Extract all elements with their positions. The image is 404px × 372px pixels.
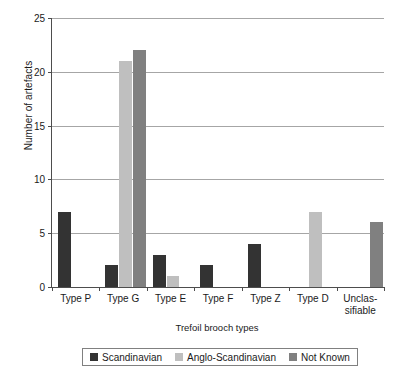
bar-group <box>337 18 384 287</box>
x-tick-mark-end <box>384 287 385 291</box>
category-group: Type F <box>194 18 241 287</box>
chart-legend: ScandinavianAnglo-ScandinavianNot Known <box>82 348 358 366</box>
legend-item[interactable]: Not Known <box>289 352 350 363</box>
x-category-label: Type D <box>289 293 336 305</box>
bar-group <box>289 18 336 287</box>
x-category-label: Type Z <box>242 293 289 305</box>
bar <box>167 276 180 287</box>
category-group: Unclas-sifiable <box>337 18 384 287</box>
legend-item[interactable]: Anglo-Scandinavian <box>175 352 276 363</box>
legend-label: Anglo-Scandinavian <box>187 352 276 363</box>
y-axis-title: Number of artefacts <box>23 26 34 186</box>
bar <box>153 255 166 287</box>
x-category-label: Type F <box>194 293 241 305</box>
x-category-label: Type P <box>52 293 99 305</box>
plot-area: 0510152025Type PType GType EType FType Z… <box>51 18 384 288</box>
legend-swatch-icon <box>90 353 98 361</box>
x-category-label: Type E <box>147 293 194 305</box>
x-tick-mark <box>99 287 100 291</box>
category-group: Type D <box>289 18 336 287</box>
bar <box>58 212 71 287</box>
x-tick-mark <box>147 287 148 291</box>
x-category-label: Type G <box>99 293 146 305</box>
bar-group <box>52 18 99 287</box>
legend-label: Scandinavian <box>102 352 162 363</box>
y-tick-label: 10 <box>34 174 45 185</box>
bar <box>370 222 383 287</box>
category-group: Type G <box>99 18 146 287</box>
legend-swatch-icon <box>289 353 297 361</box>
y-tick-label: 5 <box>39 228 45 239</box>
legend-label: Not Known <box>301 352 350 363</box>
bar-group <box>242 18 289 287</box>
y-tick-label: 25 <box>34 13 45 24</box>
bar-group <box>194 18 241 287</box>
x-tick-mark <box>242 287 243 291</box>
x-category-label: Unclas-sifiable <box>337 293 384 317</box>
category-group: Type E <box>147 18 194 287</box>
bar <box>133 50 146 287</box>
category-group: Type P <box>52 18 99 287</box>
x-tick-mark <box>337 287 338 291</box>
bar <box>309 212 322 287</box>
x-tick-mark <box>194 287 195 291</box>
bar-group <box>99 18 146 287</box>
bar <box>119 61 132 287</box>
legend-item[interactable]: Scandinavian <box>90 352 162 363</box>
bar <box>248 244 261 287</box>
bar-group <box>147 18 194 287</box>
gridline-0 <box>52 287 384 288</box>
y-tick-label: 20 <box>34 66 45 77</box>
x-tick-mark <box>52 287 53 291</box>
bar <box>105 265 118 287</box>
x-axis-title: Trefoil brooch types <box>51 322 383 333</box>
bar <box>200 265 213 287</box>
legend-swatch-icon <box>175 353 183 361</box>
category-group: Type Z <box>242 18 289 287</box>
bar-chart-figure: Number of artefacts 0510152025Type PType… <box>0 0 404 372</box>
y-tick-label: 15 <box>34 120 45 131</box>
x-tick-mark <box>289 287 290 291</box>
y-tick-label: 0 <box>39 282 45 293</box>
